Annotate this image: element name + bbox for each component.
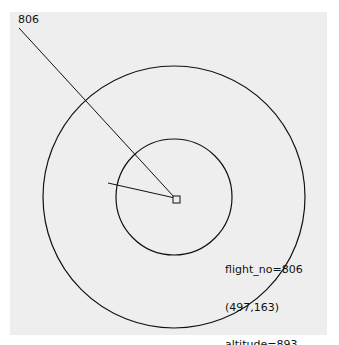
- aircraft-track-line: [19, 28, 175, 198]
- heading-vector-line: [108, 183, 175, 198]
- altitude-text: altitude=893: [225, 339, 303, 345]
- aircraft-label[interactable]: 806: [18, 13, 39, 26]
- position-text: (497,163): [225, 302, 303, 315]
- flight-number-text: flight_no=806: [225, 264, 303, 277]
- flight-info-panel: flight_no=806 (497,163) altitude=893 spe…: [225, 239, 303, 345]
- radar-center-marker[interactable]: [173, 196, 180, 203]
